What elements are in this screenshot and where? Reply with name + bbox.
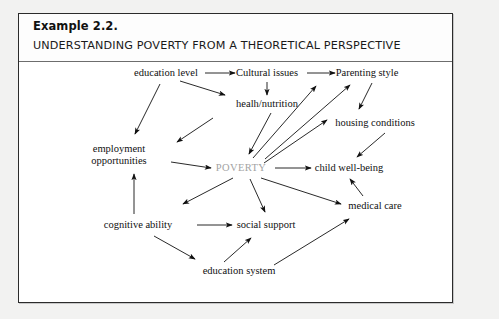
example-title: UNDERSTANDING POVERTY FROM A THEORETICAL… xyxy=(33,39,401,52)
example-header: Example 2.2. UNDERSTANDING POVERTY FROM … xyxy=(19,14,452,62)
node-employment-line-1: employment xyxy=(91,143,146,155)
edge-employment-poverty xyxy=(171,162,211,168)
edge-poverty-housing-conditions xyxy=(264,120,327,163)
diagram-canvas: education level Cultural issues Parentin… xyxy=(19,62,452,302)
node-employment-line-2: opportunities xyxy=(91,155,146,167)
edge-housing-child-well-being xyxy=(357,133,385,157)
edge-medical-care-child-well-being xyxy=(350,179,363,196)
node-employment-opportunities[interactable]: employment opportunities xyxy=(91,143,146,167)
node-health-nutrition[interactable]: healh/nutrition xyxy=(236,98,298,110)
page-background: Example 2.2. UNDERSTANDING POVERTY FROM … xyxy=(0,0,499,319)
node-education-system[interactable]: education system xyxy=(203,265,276,277)
node-child-well-being[interactable]: child well-being xyxy=(315,162,384,174)
edge-cognitive-education-system xyxy=(154,236,195,259)
edge-health-nutrition-poverty xyxy=(249,113,271,154)
node-poverty[interactable]: POVERTY xyxy=(216,162,267,174)
edge-education-level-employment xyxy=(135,84,160,134)
edge-education-system-social-support xyxy=(224,238,251,262)
node-education-level[interactable]: education level xyxy=(134,67,198,79)
example-label: Example 2.2. xyxy=(33,19,118,33)
node-parenting-style[interactable]: Parenting style xyxy=(336,67,399,79)
node-housing-conditions[interactable]: housing conditions xyxy=(335,117,415,129)
edge-poverty-social-support xyxy=(250,179,265,212)
edge-poverty-cognitive-ability xyxy=(183,178,233,204)
edge-poverty-medical-care xyxy=(261,178,341,204)
node-social-support[interactable]: social support xyxy=(237,219,296,231)
edge-poverty-parenting-style-a xyxy=(253,86,316,158)
example-box: Example 2.2. UNDERSTANDING POVERTY FROM … xyxy=(18,13,453,303)
edge-upper-right-to-employment-area xyxy=(177,118,213,142)
node-cultural-issues[interactable]: Cultural issues xyxy=(236,67,298,79)
node-medical-care[interactable]: medical care xyxy=(348,200,401,212)
edge-education-level-health-nutrition xyxy=(180,81,225,95)
edge-parenting-style-housing xyxy=(359,83,372,109)
node-cognitive-ability[interactable]: cognitive ability xyxy=(104,219,173,231)
